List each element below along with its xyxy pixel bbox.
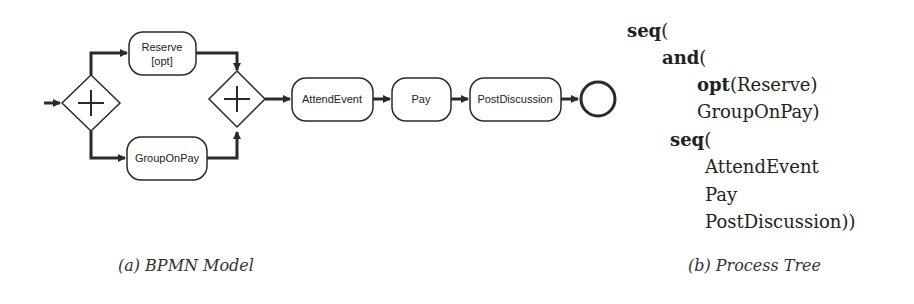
tree-text: (Reserve) [730,74,818,95]
tree-line-seq: seq( [627,20,668,41]
tree-text: ( [661,20,668,41]
tree-line-pay: Pay [705,184,737,205]
flow-grouponpay-to-join [207,132,237,158]
tree-text: ( [699,47,706,68]
tree-text: ( [704,129,711,150]
caption-process-tree: (b) Process Tree [688,256,821,275]
task-reserve-label: Reserve [142,41,183,53]
tree-line-seq-inner: seq( [670,129,711,150]
task-reserve-opt-label: [opt] [151,55,172,67]
tree-line-and: and( [662,47,706,68]
keyword-and: and [662,47,699,68]
tree-line-postdiscussion: PostDiscussion)) [705,211,856,232]
keyword-seq: seq [670,129,704,150]
tree-text: AttendEvent [705,156,819,177]
tree-text: PostDiscussion)) [705,211,856,232]
task-pay-label: Pay [412,93,431,105]
tree-line-opt-reserve: opt(Reserve) [697,74,817,95]
task-postdiscussion-label: PostDiscussion [477,93,552,105]
end-event-circle [581,82,615,116]
parallel-split-gateway [62,75,120,131]
tree-text: GroupOnPay) [697,101,820,122]
caption-bpmn-model: (a) BPMN Model [118,256,254,275]
tree-line-grouponpay: GroupOnPay) [697,101,820,122]
flow-split-to-reserve [91,53,127,75]
task-reserve [129,32,196,75]
keyword-opt: opt [697,74,730,95]
task-grouponpay-label: GroupOnPay [135,152,200,164]
task-attendevent-label: AttendEvent [302,93,362,105]
flow-split-to-grouponpay [91,131,125,158]
tree-text: Pay [705,184,737,205]
flow-reserve-to-join [196,53,237,70]
parallel-join-gateway [209,71,265,127]
keyword-seq: seq [627,20,661,41]
tree-line-attendevent: AttendEvent [705,156,819,177]
